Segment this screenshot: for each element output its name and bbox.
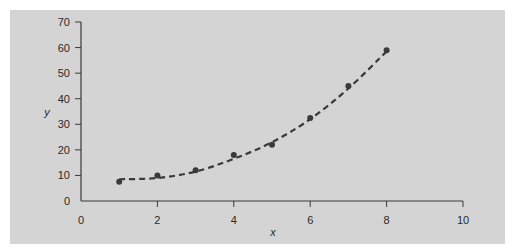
x-axis-label: x [269, 226, 276, 238]
y-tick-label: 30 [58, 118, 70, 130]
data-point [231, 152, 237, 158]
y-tick-label: 10 [58, 169, 70, 181]
fitted-curve [119, 51, 386, 179]
data-point [384, 47, 390, 53]
scatter-chart: 0102030405060700246810 x y [0, 0, 515, 251]
x-tick-label: 10 [457, 214, 469, 226]
x-tick-label: 6 [307, 214, 313, 226]
x-tick-label: 2 [154, 214, 160, 226]
data-point [116, 179, 122, 185]
y-tick-label: 40 [58, 93, 70, 105]
axes: 0102030405060700246810 [58, 16, 469, 226]
data-point [193, 167, 199, 173]
y-tick-label: 70 [58, 16, 70, 28]
x-tick-label: 8 [384, 214, 390, 226]
x-tick-label: 4 [231, 214, 237, 226]
data-point [345, 83, 351, 89]
data-point [307, 115, 313, 121]
fitted-curve-line [119, 51, 386, 179]
y-tick-label: 0 [64, 195, 70, 207]
y-tick-label: 50 [58, 67, 70, 79]
y-axis-label: y [43, 106, 51, 118]
y-tick-label: 60 [58, 42, 70, 54]
x-tick-label: 0 [78, 214, 84, 226]
data-point [154, 172, 160, 178]
y-tick-label: 20 [58, 144, 70, 156]
data-point [269, 142, 275, 148]
data-points [116, 47, 389, 185]
